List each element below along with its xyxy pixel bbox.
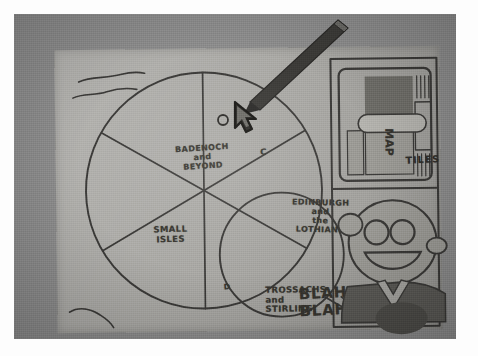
mouse-cursor[interactable] <box>227 98 267 140</box>
photograph: BADENOCH and BEYOND C EDINBURGH and the … <box>14 14 456 339</box>
photo-frame: BADENOCH and BEYOND C EDINBURGH and the … <box>0 0 478 356</box>
cursor-arrow-icon[interactable] <box>227 98 267 136</box>
stylus-pen <box>14 14 456 339</box>
